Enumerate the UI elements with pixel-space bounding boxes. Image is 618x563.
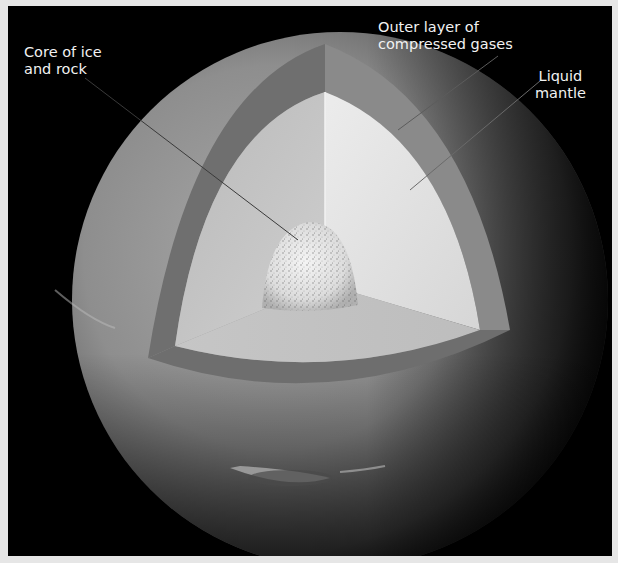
label-core-line1: Core of ice [24, 44, 102, 61]
label-mantle-line2: mantle [535, 85, 586, 102]
label-outer-layer-line2: compressed gases [378, 36, 513, 53]
planet-cutaway-illustration [8, 6, 612, 556]
label-core-line2: and rock [24, 61, 102, 78]
diagram-frame: Core of ice and rock Outer layer of comp… [8, 6, 612, 556]
label-outer-layer-line1: Outer layer of [378, 19, 513, 36]
label-core: Core of ice and rock [24, 44, 102, 78]
label-mantle-line1: Liquid [535, 68, 586, 85]
label-outer-layer: Outer layer of compressed gases [378, 19, 513, 53]
label-mantle: Liquid mantle [535, 68, 586, 102]
